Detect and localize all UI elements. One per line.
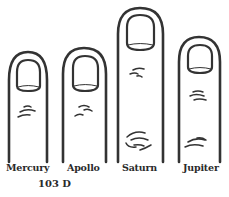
finger-jupiter — [179, 37, 220, 162]
crease-lines-apollo — [75, 106, 92, 117]
crease-lines-saturn-upper — [130, 68, 144, 77]
crease-lines-jupiter-upper — [190, 91, 206, 100]
label-apollo: Apollo — [67, 162, 100, 173]
crease-lines-jupiter-lower — [185, 138, 206, 147]
label-mercury: Mercury — [6, 162, 49, 173]
finger-mercury — [9, 52, 47, 162]
finger-apollo — [63, 48, 106, 162]
label-saturn: Saturn — [122, 162, 157, 173]
label-jupiter: Jupiter — [183, 162, 219, 173]
figure-caption: 103 D — [38, 178, 71, 189]
crease-lines-mercury — [18, 106, 35, 117]
crease-lines-saturn-lower — [126, 132, 151, 150]
finger-saturn — [118, 8, 163, 162]
